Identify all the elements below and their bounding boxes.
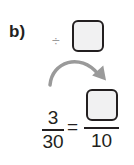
left-denominator: 30 (42, 132, 64, 152)
divide-sign: ÷ (52, 34, 60, 48)
right-denominator: 10 (84, 131, 119, 151)
divisor-answer-box[interactable] (72, 20, 104, 52)
numerator-answer-box[interactable] (86, 89, 118, 121)
curved-arrow-icon (40, 52, 115, 87)
equals-sign: = (67, 117, 78, 137)
left-numerator: 3 (43, 108, 63, 128)
right-fraction-bar (84, 127, 119, 129)
problem-label: b) (9, 22, 25, 42)
